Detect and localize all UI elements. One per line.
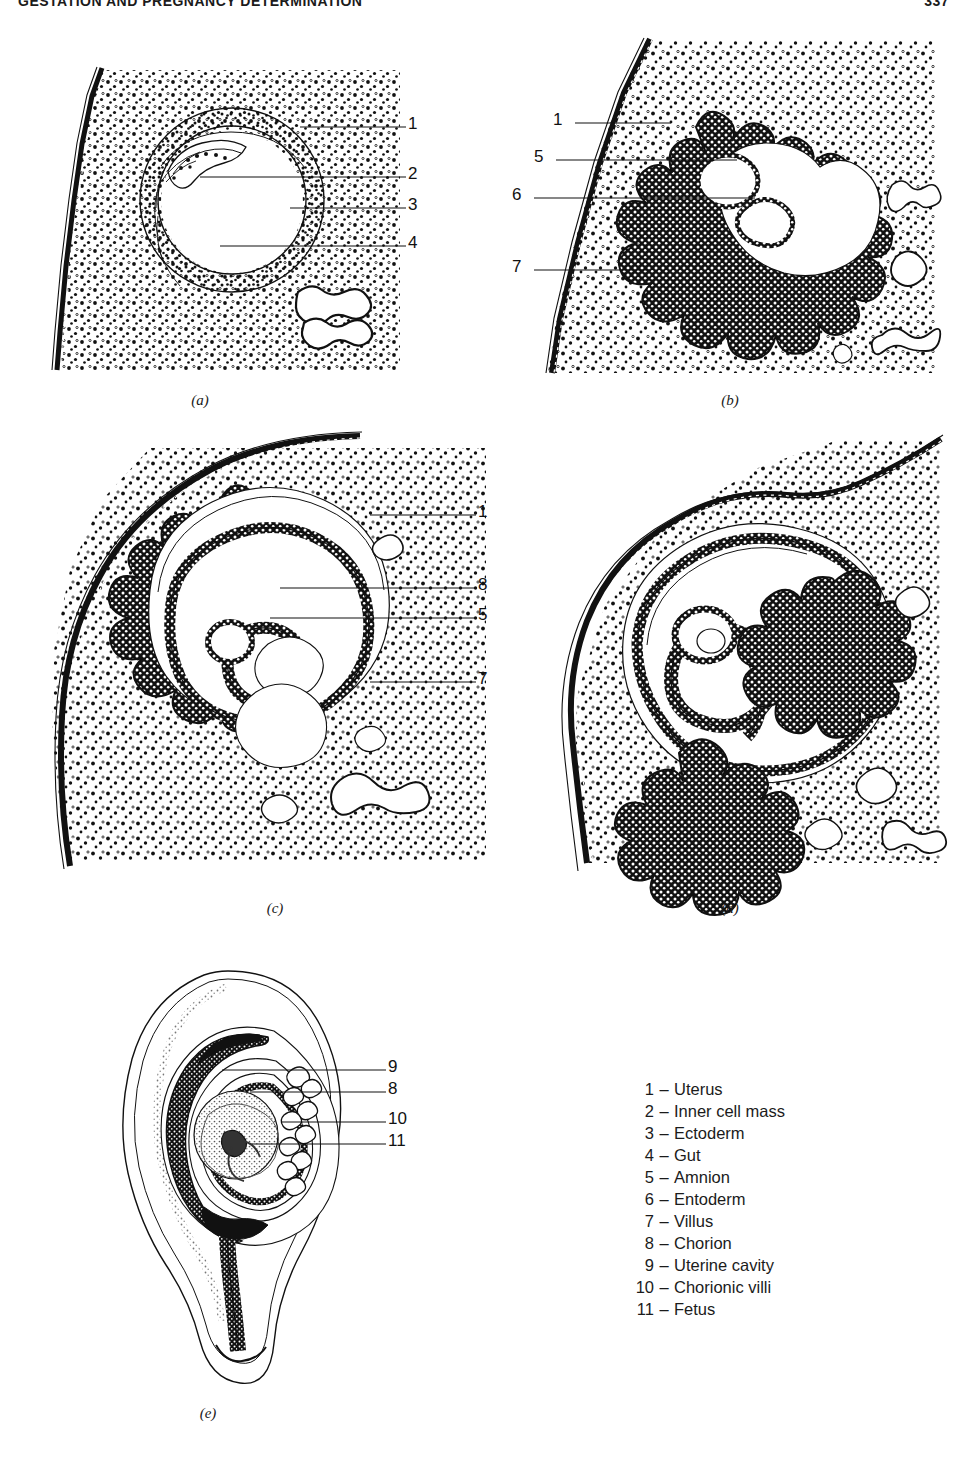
legend-label: Ectoderm	[674, 1122, 745, 1144]
legend-label: Uterine cavity	[674, 1254, 774, 1276]
panel-e-callout-10: 10	[388, 1110, 407, 1127]
panel-e-callout-9: 9	[388, 1058, 397, 1075]
panel-b-callout-6: 6	[512, 186, 521, 203]
panel-c-illustration	[30, 430, 490, 870]
panel-c-callout-5: 5	[478, 606, 487, 623]
legend-dash: –	[654, 1122, 674, 1144]
callout-number: 5	[534, 147, 543, 166]
panel-b-callout-7: 7	[512, 258, 521, 275]
panel-e-callout-11: 11	[388, 1132, 406, 1149]
legend-dash: –	[654, 1210, 674, 1232]
panel-b-callout-1: 1	[553, 111, 562, 128]
legend-label: Inner cell mass	[674, 1100, 785, 1122]
callout-number: 1	[553, 110, 562, 129]
legend-item: 10 – Chorionic villi	[630, 1276, 785, 1298]
panel-d-svg	[505, 435, 945, 875]
leader-line-b5	[556, 152, 741, 168]
legend-item: 1 – Uterus	[630, 1078, 785, 1100]
legend-label: Chorionic villi	[674, 1276, 771, 1298]
page-number: 337	[924, 0, 949, 9]
panel-a-caption: (a)	[170, 392, 230, 409]
leader-line-b6	[534, 190, 759, 206]
leader-line-e8	[250, 1084, 390, 1100]
leader-line-c1	[370, 507, 480, 523]
legend-label: Entoderm	[674, 1188, 746, 1210]
legend-dash: –	[654, 1078, 674, 1100]
legend-dash: –	[654, 1298, 674, 1320]
leader-line-e10	[282, 1114, 390, 1130]
legend-number: 7	[630, 1210, 654, 1232]
legend-item: 8 – Chorion	[630, 1232, 785, 1254]
panel-b-caption: (b)	[700, 392, 760, 409]
callout-number: 7	[512, 257, 521, 276]
legend-label: Fetus	[674, 1298, 715, 1320]
panel-a-callout-3: 3	[408, 196, 417, 213]
panel-c-caption: (c)	[245, 900, 305, 917]
panel-b-svg	[500, 35, 940, 385]
legend-item: 5 – Amnion	[630, 1166, 785, 1188]
legend-number: 10	[630, 1276, 654, 1298]
legend-item: 3 – Ectoderm	[630, 1122, 785, 1144]
panel-d-caption: (d)	[700, 900, 760, 917]
callout-number: 6	[512, 185, 521, 204]
legend-number: 2	[630, 1100, 654, 1122]
figure-legend: 1 – Uterus 2 – Inner cell mass 3 – Ectod…	[630, 1078, 785, 1320]
panel-d-illustration	[505, 435, 945, 875]
legend-label: Villus	[674, 1210, 713, 1232]
panel-c-callout-7: 7	[478, 670, 487, 687]
panel-c-callout-1: 1	[478, 503, 487, 520]
panel-a-callout-1: 1	[408, 115, 417, 132]
legend-number: 6	[630, 1188, 654, 1210]
panel-e-illustration	[108, 965, 398, 1385]
legend-number: 3	[630, 1122, 654, 1144]
legend-dash: –	[654, 1254, 674, 1276]
leader-line-b7	[534, 262, 654, 278]
callout-number: 11	[388, 1131, 406, 1150]
legend-label: Chorion	[674, 1232, 732, 1254]
panel-a-callout-4: 4	[408, 234, 417, 251]
leader-line-a2	[200, 169, 410, 185]
leader-line-b1	[575, 115, 675, 131]
legend-dash: –	[654, 1166, 674, 1188]
legend-label: Gut	[674, 1144, 701, 1166]
legend-label: Uterus	[674, 1078, 723, 1100]
panel-a-callout-2: 2	[408, 165, 417, 182]
legend-number: 5	[630, 1166, 654, 1188]
panel-b-illustration	[500, 35, 940, 385]
leader-line-a4	[220, 238, 410, 254]
legend-dash: –	[654, 1276, 674, 1298]
legend-dash: –	[654, 1188, 674, 1210]
panel-e-svg	[108, 965, 398, 1385]
leader-line-c7	[370, 674, 480, 690]
running-head: GESTATION AND PREGNANCY DETERMINATION 33…	[0, 0, 969, 13]
legend-number: 11	[630, 1298, 654, 1320]
free-villus-b4	[833, 344, 852, 363]
legend-dash: –	[654, 1232, 674, 1254]
legend-label: Amnion	[674, 1166, 730, 1188]
legend-number: 1	[630, 1078, 654, 1100]
figure-page: GESTATION AND PREGNANCY DETERMINATION 33…	[0, 0, 969, 1462]
legend-item: 6 – Entoderm	[630, 1188, 785, 1210]
free-villus-c4	[355, 726, 386, 751]
leader-line-c5	[270, 610, 480, 626]
running-head-title: GESTATION AND PREGNANCY DETERMINATION	[18, 0, 362, 9]
leader-line-c8	[280, 580, 480, 596]
embryo-head-cavity-d	[697, 629, 725, 653]
panel-e-caption: (e)	[178, 1405, 238, 1422]
legend-dash: –	[654, 1144, 674, 1166]
legend-item: 9 – Uterine cavity	[630, 1254, 785, 1276]
leader-line-a3	[290, 200, 410, 216]
legend-item: 11 – Fetus	[630, 1298, 785, 1320]
legend-number: 4	[630, 1144, 654, 1166]
panel-b-callout-5: 5	[534, 148, 543, 165]
panel-c-svg	[30, 430, 490, 870]
callout-number: 10	[388, 1109, 407, 1128]
leader-line-e11	[252, 1136, 390, 1152]
panel-c-callout-8: 8	[478, 576, 487, 593]
legend-item: 2 – Inner cell mass	[630, 1100, 785, 1122]
legend-number: 8	[630, 1232, 654, 1254]
leader-line-e9	[222, 1062, 390, 1078]
panel-e-callout-8: 8	[388, 1080, 397, 1097]
legend-item: 4 – Gut	[630, 1144, 785, 1166]
legend-number: 9	[630, 1254, 654, 1276]
